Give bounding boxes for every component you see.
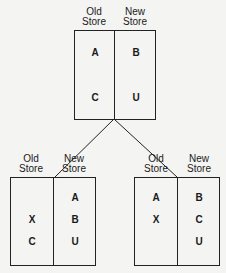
new-item: U [65, 237, 85, 247]
new-item: B [189, 193, 209, 203]
left-child-box: X C A B U [10, 177, 96, 266]
new-store-label: New Store [179, 154, 219, 174]
store-divider [177, 178, 178, 265]
new-item: C [189, 215, 209, 225]
old-item: C [85, 93, 105, 103]
old-item: A [85, 48, 105, 58]
old-store-label: Old Store [11, 154, 51, 174]
old-store-label: Old Store [136, 154, 176, 174]
new-item: U [189, 237, 209, 247]
new-item: B [65, 215, 85, 225]
new-item: A [65, 193, 85, 203]
right-child-box: A X B C U [134, 177, 220, 266]
old-item: X [22, 215, 42, 225]
new-item: B [126, 48, 146, 58]
new-item: U [126, 93, 146, 103]
store-divider [53, 178, 54, 265]
store-tree-diagram: Old Store New Store A C B U Old Store Ne… [0, 0, 226, 273]
new-store-label: New Store [115, 7, 155, 27]
old-item: A [146, 193, 166, 203]
store-divider [114, 31, 115, 119]
old-item: X [146, 215, 166, 225]
old-store-label: Old Store [74, 7, 114, 27]
old-item: C [22, 237, 42, 247]
root-box: A C B U [74, 30, 156, 120]
new-store-label: New Store [54, 154, 94, 174]
